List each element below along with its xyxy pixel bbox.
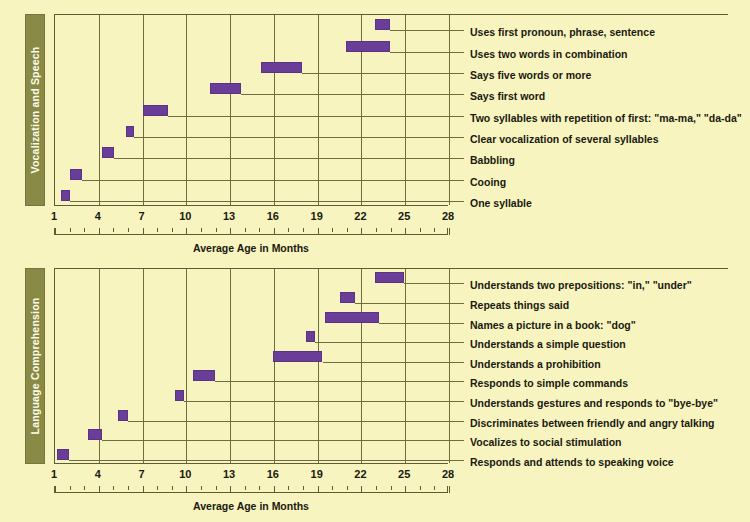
- axis-tick-label-1: 1: [51, 210, 57, 222]
- axis-tick-3: [84, 228, 85, 232]
- milestone-bar: [70, 169, 82, 180]
- milestone-label: Says first word: [470, 90, 545, 102]
- milestone-bar: [175, 390, 184, 401]
- axis-tick-9: [172, 486, 173, 490]
- axis-tick-12: [216, 486, 217, 490]
- row-leader-line: [102, 440, 464, 441]
- axis-tick-label-10: 10: [179, 468, 191, 480]
- gridline-month-19: [318, 14, 319, 205]
- gridline-month-10: [186, 14, 187, 205]
- axis-tick-7: [143, 228, 144, 235]
- axis-tick-5: [113, 486, 114, 490]
- row-leader-line: [323, 362, 464, 363]
- milestone-bar: [61, 190, 70, 201]
- axis-tick-13: [230, 228, 231, 235]
- milestone-bar: [325, 312, 379, 323]
- milestone-label: Discriminates between friendly and angry…: [470, 417, 714, 429]
- milestone-bar: [375, 272, 404, 283]
- axis-tick-24: [391, 486, 392, 490]
- axis-tick-17: [288, 486, 289, 490]
- milestone-label: Two syllables with repetition of first: …: [470, 112, 742, 124]
- axis-tick-label-7: 7: [138, 468, 144, 480]
- axis-tick-22: [361, 486, 362, 493]
- axis-tick-2: [70, 228, 71, 232]
- axis-tick-23: [376, 228, 377, 232]
- milestone-label: Names a picture in a book: "dog": [470, 319, 636, 331]
- gridline-month-28: [449, 268, 450, 463]
- axis-tick-27: [434, 228, 435, 232]
- axis-tick-27: [434, 486, 435, 490]
- axis-tick-25: [405, 486, 406, 493]
- plot-area-comprehension: [54, 268, 448, 464]
- milestone-label: Understands a prohibition: [470, 358, 601, 370]
- milestone-bar: [273, 351, 323, 362]
- row-leader-line: [390, 52, 464, 53]
- axis-tick-12: [216, 228, 217, 232]
- axis-tick-19: [318, 228, 319, 235]
- axis-tick-label-4: 4: [95, 210, 101, 222]
- category-tab-speech: Vocalization and Speech: [25, 14, 45, 206]
- axis-tick-label-28: 28: [442, 210, 454, 222]
- axis-tick-label-7: 7: [138, 210, 144, 222]
- milestone-bar: [346, 41, 390, 52]
- milestone-label: Responds to simple commands: [470, 377, 628, 389]
- milestone-label: Responds and attends to speaking voice: [470, 456, 674, 468]
- axis-tick-3: [84, 486, 85, 490]
- milestone-bar: [193, 370, 215, 381]
- axis-tick-label-22: 22: [354, 210, 366, 222]
- axis-tick-label-13: 13: [223, 210, 235, 222]
- row-leader-line: [184, 401, 464, 402]
- gridline-month-22: [361, 268, 362, 463]
- row-leader-line: [355, 303, 464, 304]
- axis-tick-label-10: 10: [179, 210, 191, 222]
- axis-tick-19: [318, 486, 319, 493]
- axis-tick-15: [259, 486, 260, 490]
- milestone-label: Uses two words in combination: [470, 48, 628, 60]
- milestone-label: Repeats things said: [470, 299, 569, 311]
- axis-tick-label-22: 22: [354, 468, 366, 480]
- milestone-bar: [375, 19, 390, 30]
- row-leader-line: [302, 73, 464, 74]
- milestone-label: Babbling: [470, 154, 515, 166]
- axis-ruler: [54, 486, 448, 493]
- milestone-bar: [88, 429, 103, 440]
- milestone-label: Uses first pronoun, phrase, sentence: [470, 26, 655, 38]
- axis-tick-2: [70, 486, 71, 490]
- axis-tick-25: [405, 228, 406, 235]
- axis-tick-15: [259, 228, 260, 232]
- axis-tick-24: [391, 228, 392, 232]
- milestone-bar: [261, 62, 302, 73]
- axis-tick-28: [449, 228, 450, 235]
- milestone-label: Vocalizes to social stimulation: [470, 436, 622, 448]
- panel-top-rule: [54, 14, 728, 15]
- axis-tick-18: [303, 486, 304, 490]
- axis-tick-label-19: 19: [311, 210, 323, 222]
- axis-tick-20: [332, 228, 333, 232]
- axis-tick-10: [186, 486, 187, 493]
- axis-tick-label-16: 16: [267, 210, 279, 222]
- axis-tick-label-13: 13: [223, 468, 235, 480]
- axis-tick-18: [303, 228, 304, 232]
- row-leader-line: [114, 158, 464, 159]
- axis-tick-label-19: 19: [311, 468, 323, 480]
- row-leader-line: [215, 381, 464, 382]
- milestone-label: Understands two prepositions: "in," "und…: [470, 279, 692, 291]
- axis-tick-label-25: 25: [398, 468, 410, 480]
- panel-language-comprehension: Language ComprehensionUnderstands two pr…: [0, 268, 750, 522]
- axis-tick-5: [113, 228, 114, 232]
- gridline-month-7: [143, 268, 144, 463]
- row-leader-line: [390, 30, 464, 31]
- axis-tick-6: [128, 228, 129, 232]
- axis-tick-9: [172, 228, 173, 232]
- axis-tick-1: [55, 228, 56, 235]
- axis-tick-8: [157, 486, 158, 490]
- axis-tick-16: [274, 486, 275, 493]
- axis-tick-1: [55, 486, 56, 493]
- category-tab-comprehension: Language Comprehension: [25, 268, 45, 464]
- axis-tick-label-1: 1: [51, 468, 57, 480]
- gridline-month-13: [230, 268, 231, 463]
- axis-tick-26: [420, 228, 421, 232]
- milestone-label: Cooing: [470, 176, 506, 188]
- axis-tick-17: [288, 228, 289, 232]
- gridline-month-25: [405, 14, 406, 205]
